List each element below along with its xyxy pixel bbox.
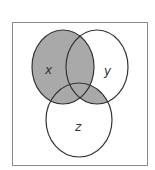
set-z-label: z: [74, 120, 82, 134]
venn-diagram: x y z: [0, 0, 155, 170]
set-x-label: x: [44, 63, 53, 77]
set-y-label: y: [103, 64, 112, 78]
